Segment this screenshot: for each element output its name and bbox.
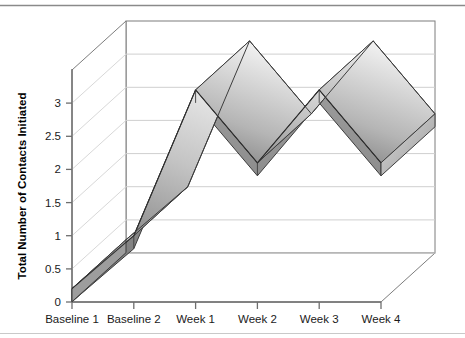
x-tick-label-baseline-2: Baseline 2 (107, 313, 161, 325)
x-tick-label-week-4: Week 4 (362, 313, 401, 325)
x-tick-label-week-3: Week 3 (300, 313, 339, 325)
chart-figure: 0 0.5 1 1.5 2 2.5 3 Baseline 1 Baseline … (0, 0, 465, 338)
x-tick-label-week-2: Week 2 (238, 313, 277, 325)
y-tick-label-4: 2 (55, 163, 61, 175)
y-tick-label-6: 3 (55, 97, 61, 109)
y-axis-title: Total Number of Contacts Initiated (16, 93, 28, 280)
y-tick-label-0: 0 (55, 296, 61, 308)
y-axis-ticks (66, 103, 72, 302)
y-tick-label-2: 1 (55, 230, 61, 242)
x-tick-label-baseline-1: Baseline 1 (45, 313, 99, 325)
y-tick-label-1: 0.5 (45, 263, 61, 275)
x-tick-label-week-1: Week 1 (176, 313, 215, 325)
plot-floor (72, 253, 435, 302)
x-axis-ticks (72, 302, 381, 309)
chart-canvas: 0 0.5 1 1.5 2 2.5 3 Baseline 1 Baseline … (0, 0, 465, 338)
y-tick-label-3: 1.5 (45, 197, 61, 209)
y-tick-label-5: 2.5 (45, 130, 61, 142)
